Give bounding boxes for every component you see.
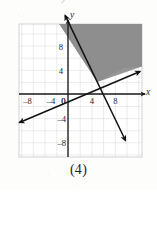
x-tick-label: –4 xyxy=(46,96,56,106)
y-tick-label: –8 xyxy=(56,138,66,148)
y-tick-label: 4 xyxy=(59,66,64,76)
x-tick-label: 8 xyxy=(113,96,117,106)
y-tick-label: 0 xyxy=(61,96,65,106)
x-tick-label: 4 xyxy=(90,96,95,106)
figure-caption: (4) xyxy=(0,162,157,178)
y-tick-label: –4 xyxy=(56,114,66,124)
x-tick-label: –8 xyxy=(22,96,32,106)
y-tick-label: 8 xyxy=(59,42,63,52)
